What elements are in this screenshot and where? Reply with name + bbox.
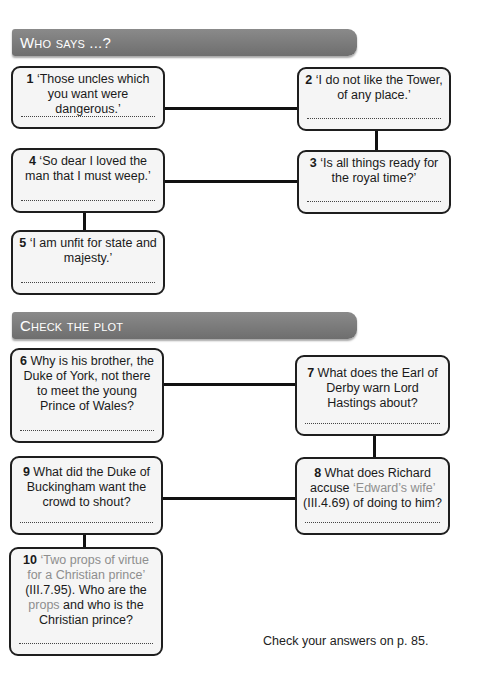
- quoted-word: props: [28, 598, 59, 612]
- answer-line[interactable]: [305, 522, 440, 523]
- question-box-5: 5 ‘I am unfit for state and majesty.’: [11, 230, 165, 295]
- connector-1-2: [164, 107, 297, 110]
- question-box-3: 3 ‘Is all things ready for the royal tim…: [297, 150, 451, 214]
- question-text: ‘Is all things ready for the royal time?…: [320, 156, 438, 185]
- question-box-6: 6 Why is his brother, the Duke of York, …: [10, 348, 164, 443]
- answer-line[interactable]: [21, 200, 155, 201]
- question-text: ‘I do not like the Tower, of any place.’: [316, 73, 443, 102]
- question-number: 10: [23, 553, 37, 567]
- question-number: 1: [27, 72, 34, 86]
- question-text: What did the Duke of Buckingham want the…: [27, 465, 150, 509]
- answer-line[interactable]: [20, 522, 153, 523]
- answer-line[interactable]: [307, 201, 441, 202]
- question-number: 7: [307, 366, 314, 380]
- question-number: 5: [19, 236, 26, 250]
- answers-reference-note: Check your answers on p. 85.: [263, 634, 428, 648]
- question-number: 2: [305, 73, 312, 87]
- question-box-8: 8 What does Richard accuse ‘Edward’s wif…: [295, 457, 450, 535]
- question-box-9: 9 What did the Duke of Buckingham want t…: [10, 456, 163, 535]
- question-box-7: 7 What does the Earl of Derby warn Lord …: [295, 355, 450, 436]
- question-box-4: 4 ‘So dear I loved the man that I must w…: [11, 148, 165, 213]
- question-text: Why is his brother, the Duke of York, no…: [23, 354, 154, 413]
- question-number: 8: [314, 466, 321, 480]
- quoted-text: ‘Edward’s wife’: [353, 481, 435, 495]
- connector-6-7: [163, 383, 295, 386]
- answer-line[interactable]: [20, 430, 154, 431]
- section-header-check-the-plot: Check the plot: [12, 312, 357, 339]
- question-number: 3: [310, 156, 317, 170]
- connector-9-10: [83, 534, 86, 547]
- answer-line[interactable]: [19, 643, 153, 644]
- question-box-2: 2 ‘I do not like the Tower, of any place…: [297, 67, 451, 131]
- question-text-after: (III.4.69) of doing to him?: [303, 496, 442, 510]
- answer-line[interactable]: [21, 116, 155, 117]
- connector-2-3: [375, 130, 378, 150]
- section-header-who-says: Who says ...?: [12, 29, 357, 56]
- question-text: ‘So dear I loved the man that I must wee…: [25, 154, 151, 183]
- question-text: What does the Earl of Derby warn Lord Ha…: [318, 366, 438, 410]
- answer-line[interactable]: [307, 118, 441, 119]
- answer-line[interactable]: [21, 282, 155, 283]
- question-box-10: 10 ‘Two props of virtue for a Christian …: [9, 547, 163, 656]
- connector-4-5: [83, 212, 86, 230]
- question-number: 9: [23, 465, 30, 479]
- quoted-text: ‘Two props of virtue for a Christian pri…: [27, 553, 149, 582]
- question-number: 4: [29, 154, 36, 168]
- question-text: ‘I am unfit for state and majesty.’: [30, 236, 157, 265]
- question-number: 6: [20, 354, 27, 368]
- question-text: ‘Those uncles which you want were danger…: [37, 72, 150, 116]
- connector-7-8: [373, 435, 376, 457]
- connector-3-4: [164, 180, 297, 183]
- question-text-mid: (III.7.95). Who are the: [25, 583, 147, 597]
- connector-8-9: [162, 497, 295, 500]
- answer-line[interactable]: [305, 423, 440, 424]
- question-box-1: 1 ‘Those uncles which you want were dang…: [11, 66, 165, 129]
